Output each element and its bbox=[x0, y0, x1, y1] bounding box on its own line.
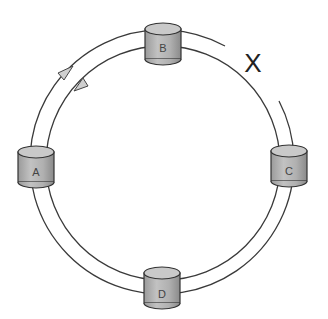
cylinder-top bbox=[145, 23, 181, 35]
node-label-b: B bbox=[159, 42, 166, 54]
fault-marker: X bbox=[244, 48, 261, 78]
cylinder-top bbox=[18, 146, 54, 158]
cylinder-base bbox=[271, 181, 307, 187]
node-a[interactable]: A bbox=[18, 146, 54, 188]
node-label-d: D bbox=[158, 288, 166, 300]
node-c[interactable]: C bbox=[271, 145, 307, 187]
cylinder-top bbox=[271, 145, 307, 157]
node-d[interactable]: D bbox=[144, 267, 180, 309]
cylinder-base bbox=[145, 59, 181, 65]
node-label-a: A bbox=[32, 166, 40, 178]
node-b[interactable]: B bbox=[145, 23, 181, 65]
cylinder-top bbox=[144, 267, 180, 279]
cylinder-base bbox=[144, 303, 180, 309]
ring-diagram: X B A C D bbox=[0, 0, 328, 319]
node-label-c: C bbox=[285, 165, 293, 177]
